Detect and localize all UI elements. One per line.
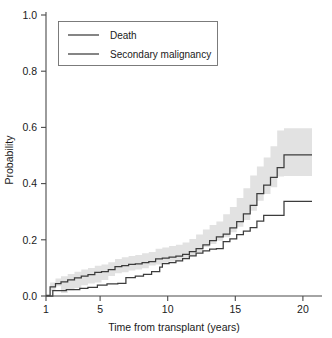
y-tick-label-0.8: 0.8 bbox=[22, 65, 37, 77]
x-axis-title: Time from transplant (years) bbox=[108, 321, 239, 333]
y-tick-label-0.6: 0.6 bbox=[22, 121, 37, 133]
y-tick-label-1.0: 1.0 bbox=[22, 9, 37, 21]
chart-legend: Death Secondary malignancy bbox=[59, 22, 218, 66]
legend-label-death: Death bbox=[110, 30, 137, 41]
x-tick-label-20: 20 bbox=[297, 303, 309, 315]
legend-label-secondary-malignancy: Secondary malignancy bbox=[110, 49, 211, 60]
chart-figure: 0.0 0.2 0.4 0.6 0.8 1.0 1 5 10 15 20 Tim… bbox=[0, 0, 332, 338]
x-tick-label-5: 5 bbox=[97, 303, 103, 315]
y-tick-label-0.2: 0.2 bbox=[22, 234, 37, 246]
x-tick-label-10: 10 bbox=[162, 303, 174, 315]
x-tick-label-1: 1 bbox=[43, 303, 49, 315]
y-tick-label-0.4: 0.4 bbox=[22, 177, 37, 189]
cumulative-incidence-chart: 0.0 0.2 0.4 0.6 0.8 1.0 1 5 10 15 20 Tim… bbox=[0, 0, 332, 338]
y-axis-title: Probability bbox=[3, 135, 15, 185]
x-tick-label-15: 15 bbox=[229, 303, 241, 315]
y-tick-label-0.0: 0.0 bbox=[22, 290, 37, 302]
